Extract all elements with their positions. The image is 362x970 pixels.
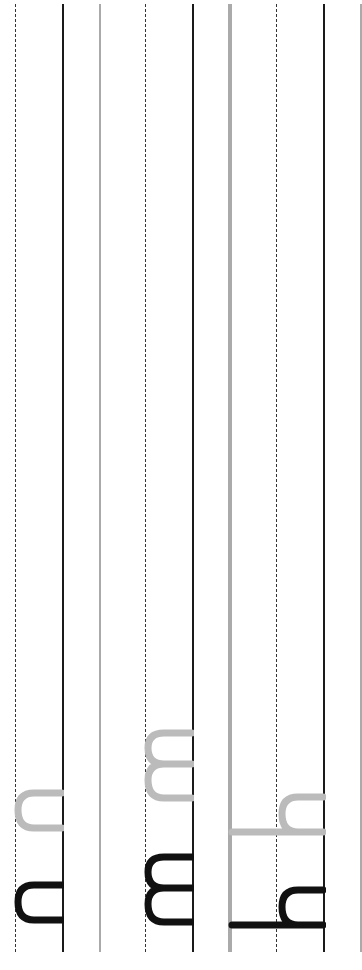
- row-1-topline: [99, 4, 101, 952]
- row-3-trace-letter-h: [226, 792, 326, 842]
- row-2-midline-dashed: [145, 4, 146, 952]
- row-1-trace-letter-n: [12, 788, 64, 838]
- row-1-model-letter-n: [12, 880, 64, 930]
- row-2-baseline: [192, 4, 194, 952]
- row-2-trace-letter-m: [142, 728, 194, 808]
- row-3-model-letter-h: [226, 885, 326, 935]
- row-2-model-letter-m: [142, 852, 194, 932]
